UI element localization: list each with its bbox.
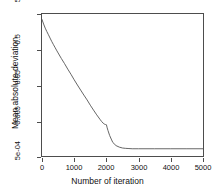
y-tick-label-4: 5e-04 xyxy=(14,141,22,173)
y-tick-label-0: 5 xyxy=(14,0,22,30)
x-tick-mark-4 xyxy=(171,158,172,162)
x-tick-mark-2 xyxy=(106,158,107,162)
y-tick-label-3: 0.005 xyxy=(14,106,22,138)
data-series-curve xyxy=(42,14,203,156)
series-line-path xyxy=(42,20,203,149)
y-tick-label-2: 0.05 xyxy=(14,70,22,102)
y-tick-label-1: 0.5 xyxy=(14,34,22,66)
x-axis-title: Number of iteration xyxy=(0,176,215,186)
x-tick-mark-3 xyxy=(139,158,140,162)
plot-area xyxy=(41,13,204,157)
x-tick-label-5: 5000 xyxy=(183,163,215,172)
x-tick-mark-0 xyxy=(42,158,43,162)
x-tick-mark-5 xyxy=(203,158,204,162)
y-tick-mark-4 xyxy=(37,157,41,158)
x-tick-mark-1 xyxy=(74,158,75,162)
chart-figure: Mean absolute deviation 5 0.5 0.05 0.005… xyxy=(0,0,215,194)
